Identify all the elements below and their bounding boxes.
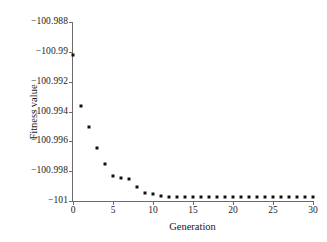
y-axis-title: Fitness value — [29, 84, 40, 139]
data-point — [296, 195, 299, 198]
data-point — [128, 178, 131, 181]
data-point — [312, 195, 315, 198]
fitness-convergence-chart: −100.988−100.99−100.992−100.994−100.996−… — [0, 0, 327, 242]
data-point — [136, 185, 139, 188]
data-point — [264, 195, 267, 198]
data-point — [160, 194, 163, 197]
y-axis-tick — [69, 112, 73, 113]
data-point — [96, 147, 99, 150]
x-axis-tick-label: 15 — [188, 206, 198, 216]
data-point — [200, 195, 203, 198]
y-axis-tick-label: −101 — [48, 196, 68, 206]
data-point — [256, 195, 259, 198]
data-point — [152, 193, 155, 196]
y-axis-tick-label: −100.99 — [36, 47, 68, 57]
data-point — [304, 195, 307, 198]
x-axis-tick-label: 10 — [148, 206, 158, 216]
data-point — [168, 195, 171, 198]
x-axis-tick-label: 25 — [268, 206, 278, 216]
plot-area: −100.988−100.99−100.992−100.994−100.996−… — [72, 22, 313, 202]
data-point — [88, 126, 91, 129]
data-point — [120, 176, 123, 179]
data-point — [288, 195, 291, 198]
data-point — [144, 191, 147, 194]
data-point — [104, 163, 107, 166]
y-axis-tick — [69, 141, 73, 142]
y-axis-tick — [69, 171, 73, 172]
data-point — [80, 105, 83, 108]
data-point — [208, 195, 211, 198]
data-point — [72, 53, 75, 56]
data-point — [216, 195, 219, 198]
data-point — [184, 195, 187, 198]
y-axis-tick-label: −100.998 — [31, 166, 68, 176]
x-axis-tick-label: 0 — [71, 206, 76, 216]
data-point — [224, 195, 227, 198]
x-axis-tick-label: 20 — [228, 206, 238, 216]
data-point — [176, 195, 179, 198]
data-point — [240, 195, 243, 198]
data-point — [112, 175, 115, 178]
y-axis-tick-label: −100.988 — [31, 17, 68, 27]
data-point — [192, 195, 195, 198]
x-axis-tick-label: 5 — [111, 206, 116, 216]
data-point — [248, 195, 251, 198]
data-point — [280, 195, 283, 198]
x-axis-tick-label: 30 — [308, 206, 318, 216]
x-axis-title: Generation — [72, 222, 313, 233]
y-axis-tick — [69, 22, 73, 23]
data-point — [272, 195, 275, 198]
data-point — [232, 195, 235, 198]
y-axis-tick — [69, 82, 73, 83]
